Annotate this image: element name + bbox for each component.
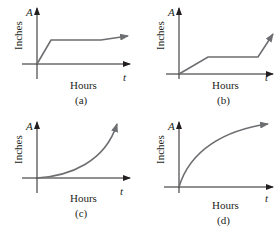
y-axis-label: Inches: [154, 135, 166, 164]
y-var-label: A: [25, 120, 33, 132]
x-axis-label: Hours: [212, 79, 239, 91]
x-var-label: t: [265, 192, 269, 204]
curve-a: [37, 36, 128, 64]
caption: (b): [217, 94, 230, 107]
y-axis-label: Inches: [154, 21, 166, 50]
caption: (c): [75, 207, 88, 220]
curve-b: [179, 34, 273, 74]
panel-c: A Inches t Hours (c): [12, 120, 130, 220]
x-axis-label: Hours: [70, 192, 97, 204]
x-axis-label: Hours: [70, 79, 97, 91]
x-var-label: t: [123, 71, 127, 83]
y-var-label: A: [167, 120, 175, 132]
y-var-label: A: [25, 6, 33, 18]
curve-d: [179, 124, 268, 187]
x-var-label: t: [120, 185, 124, 197]
caption: (d): [217, 214, 230, 227]
graphs-figure: A Inches t Hours (a) A Inches t Hours (b…: [0, 0, 277, 231]
y-axis-label: Inches: [12, 135, 24, 164]
y-var-label: A: [167, 6, 175, 18]
x-axis-label: Hours: [212, 199, 239, 211]
x-var-label: t: [265, 71, 269, 83]
panel-d: A Inches t Hours (d): [154, 120, 273, 227]
caption: (a): [75, 94, 88, 107]
curve-c: [37, 124, 117, 178]
panel-b: A Inches t Hours (b): [154, 6, 273, 107]
panel-a: A Inches t Hours (a): [12, 6, 130, 107]
y-axis-label: Inches: [12, 21, 24, 50]
